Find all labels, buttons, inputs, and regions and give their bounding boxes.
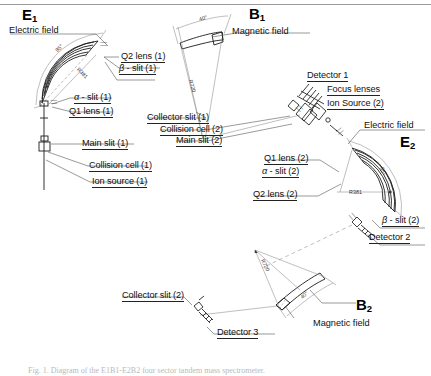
field-caption-b2: Magnetic field (313, 318, 370, 328)
dim-e1-entry-gap: ││ (51, 99, 57, 106)
field-caption-e2: Electric field (364, 120, 414, 130)
e1-entrance-optics (39, 101, 50, 190)
label-focus-lenses: Focus lenses (327, 84, 380, 96)
label-ion-source-2: Ion Source (2) (327, 98, 384, 110)
sector-label-e2: E2 (400, 133, 415, 150)
label-detector-1: Detector 1 (307, 70, 348, 82)
label-q2-lens-2: Q2 lens (2) (253, 189, 297, 201)
label-collision-cell-1: Collision cell (1) (89, 160, 152, 172)
label-detector-3: Detector 3 (217, 327, 258, 339)
label-beta-slit-2: β - slit (2) (382, 215, 419, 227)
field-caption-b1: Magnetic field (232, 26, 289, 36)
label-alpha-slit-2: α - slit (2) (262, 166, 299, 178)
label-q1-lens-1: Q1 lens (1) (69, 106, 113, 118)
label-q1-lens-2: Q1 lens (2) (264, 153, 308, 165)
detector3-assembly (194, 296, 213, 323)
field-caption-e1: Electric field (9, 25, 59, 35)
label-collision-cell-2: Collision cell (2) (160, 124, 223, 136)
label-ion-source-1: Ion source (1) (92, 176, 147, 188)
sector-label-b1: B1 (249, 5, 265, 22)
label-main-slit-1: Main slit (1) (82, 138, 128, 150)
b1-sector-body (180, 32, 223, 49)
sector-label-b2: B2 (356, 296, 372, 313)
figure-caption: Fig. 1. Diagram of the E1B1-E2B2 four se… (28, 366, 265, 375)
label-beta-slit-1: β - slit (1) (119, 63, 156, 75)
dim-e2-radius: R381 (349, 189, 362, 195)
label-collector-slit-2: Collector slit (2) (122, 290, 184, 302)
label-detector-2: Detector 2 (369, 232, 410, 244)
sector-label-e1: E1 (22, 6, 37, 23)
dim-e1-exit-gap: ││ (101, 41, 107, 48)
e2-sector-body (352, 148, 396, 212)
label-collector-slit-1: Collector slit (1) (147, 112, 209, 124)
label-q2-lens-1: Q2 lens (1) (121, 51, 165, 63)
label-alpha-slit-1: α - slit (1) (74, 92, 111, 104)
e2-dimension-lines (337, 138, 404, 218)
e2-b2-beam-path (262, 225, 352, 268)
label-main-slit-2: Main slit (2) (176, 135, 222, 147)
figure-canvas: E1 Electric field B1 Magnetic field E2 E… (0, 0, 431, 376)
